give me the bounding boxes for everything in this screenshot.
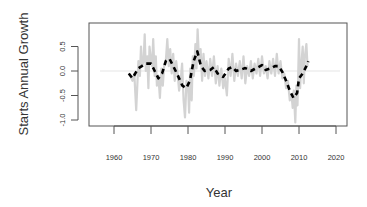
raw-growth-line <box>129 29 308 122</box>
x-tick-label: 1990 <box>217 153 234 162</box>
chart: -1.0-0.50.00.5 1960197019801990200020102… <box>0 0 367 207</box>
x-tick-label: 1960 <box>106 153 123 162</box>
x-tick-label: 2010 <box>291 153 308 162</box>
y-tick-label: -0.5 <box>58 89 67 102</box>
x-axis: 1960197019801990200020102020 <box>106 126 345 162</box>
y-tick-label: -1.0 <box>58 114 67 127</box>
x-axis-label: Year <box>206 185 233 200</box>
x-tick-label: 1970 <box>143 153 160 162</box>
y-axis-label: Starts Annual Growth <box>16 13 31 136</box>
y-tick-label: 0.0 <box>58 66 67 76</box>
series-layer <box>129 29 308 122</box>
x-tick-label: 2020 <box>328 153 345 162</box>
x-tick-label: 2000 <box>254 153 271 162</box>
y-axis: -1.0-0.50.00.5 <box>58 41 78 126</box>
x-tick-label: 1980 <box>180 153 197 162</box>
y-tick-label: 0.5 <box>58 41 67 51</box>
